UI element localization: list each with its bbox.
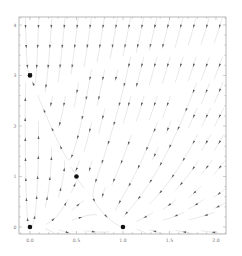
y-tick-label: 2 — [14, 124, 17, 129]
streamline — [163, 212, 185, 220]
streamline — [71, 180, 84, 194]
arrowhead-icon — [219, 64, 221, 68]
arrowhead-icon — [138, 196, 141, 200]
arrowhead-icon — [124, 44, 126, 48]
x-tick-label: 0.5 — [73, 238, 80, 243]
arrowhead-icon — [76, 25, 78, 29]
arrowhead-icon — [71, 154, 74, 158]
arrowhead-icon — [63, 25, 65, 29]
streamline — [201, 83, 210, 104]
streamline — [32, 122, 38, 227]
arrowhead-icon — [212, 232, 216, 234]
arrowhead-icon — [52, 127, 54, 131]
arrowhead-icon — [113, 179, 115, 183]
streamline — [149, 96, 157, 121]
streamline — [214, 18, 222, 44]
arrowhead-icon — [64, 202, 67, 206]
arrowhead-icon — [128, 103, 130, 107]
arrowhead-icon — [154, 128, 156, 132]
arrowhead-icon — [86, 96, 88, 100]
y-tick-label: 3 — [14, 73, 17, 78]
arrowhead-icon — [25, 158, 27, 162]
streamline — [214, 203, 226, 209]
streamline — [188, 18, 196, 46]
equilibrium-point — [121, 225, 126, 230]
streamline — [166, 121, 171, 134]
arrowhead-icon — [193, 64, 195, 68]
streamline — [136, 57, 144, 88]
arrowhead-icon — [216, 205, 220, 208]
arrowhead-icon — [138, 165, 140, 169]
arrowhead-icon — [37, 45, 39, 49]
streamline — [58, 161, 65, 198]
x-tick-label: 2.0 — [212, 238, 219, 243]
streamline — [32, 18, 39, 85]
streamline — [99, 109, 105, 134]
streamline — [150, 134, 198, 204]
streamline — [175, 161, 198, 191]
arrowhead-icon — [76, 167, 78, 171]
streamline — [45, 18, 52, 93]
arrowhead-icon — [153, 231, 157, 233]
arrowhead-icon — [174, 214, 178, 216]
x-tick-label: 0.0 — [26, 238, 33, 243]
streamline — [72, 215, 97, 221]
arrowhead-icon — [24, 138, 26, 142]
arrowhead-icon — [167, 128, 169, 132]
arrowhead-icon — [154, 25, 156, 29]
x-axis-tick-labels: 0.00.51.01.52.0 — [26, 238, 219, 243]
arrowhead-icon — [206, 64, 208, 68]
y-tick-label: 4 — [14, 23, 17, 28]
arrowhead-icon — [95, 179, 97, 183]
arrowhead-icon — [24, 98, 26, 102]
arrowhead-icon — [136, 83, 138, 87]
arrowhead-icon — [115, 25, 117, 29]
arrowhead-icon — [160, 162, 163, 166]
arrowhead-icon — [141, 103, 143, 107]
arrowhead-icon — [44, 109, 46, 113]
arrowhead-icon — [178, 127, 180, 131]
arrowhead-icon — [128, 142, 130, 146]
plot-frame — [19, 17, 226, 234]
arrowhead-icon — [193, 90, 195, 94]
streamline — [150, 230, 163, 234]
arrowhead-icon — [193, 140, 196, 144]
arrowhead-icon — [193, 115, 195, 119]
streamline — [152, 147, 158, 160]
arrowhead-icon — [183, 158, 186, 162]
equilibrium-points — [28, 73, 126, 229]
streamline — [214, 57, 223, 79]
streamline — [202, 231, 223, 234]
streamline — [175, 57, 183, 83]
arrowhead-icon — [50, 157, 52, 161]
arrowhead-icon — [115, 77, 117, 81]
arrowhead-icon — [102, 160, 104, 164]
arrowhead-icon — [50, 103, 52, 107]
arrowhead-icon — [192, 166, 195, 170]
streamline — [189, 212, 215, 220]
streamline — [201, 18, 209, 45]
y-tick-label: 1 — [14, 174, 17, 179]
arrowhead-icon — [71, 64, 73, 68]
arrowhead-icon — [59, 122, 61, 126]
arrowhead-icon — [180, 64, 182, 68]
arrowhead-icon — [204, 214, 208, 216]
arrowhead-icon — [121, 160, 123, 164]
x-tick-label: 1.0 — [119, 238, 126, 243]
arrowhead-icon — [143, 216, 147, 219]
streamline — [38, 70, 92, 160]
arrowhead-icon — [154, 153, 156, 157]
streamline — [214, 82, 223, 103]
streamline — [25, 83, 30, 228]
y-tick-label: 0 — [14, 225, 17, 230]
arrowhead-icon — [119, 103, 121, 107]
streamline — [85, 231, 110, 232]
arrowhead-icon — [25, 25, 27, 29]
arrowhead-icon — [74, 45, 76, 49]
arrowhead-icon — [33, 82, 35, 86]
arrowhead-icon — [128, 25, 130, 29]
streamline — [74, 83, 78, 108]
arrowhead-icon — [63, 103, 65, 107]
arrowhead-icon — [108, 141, 110, 145]
arrowhead-icon — [219, 114, 222, 118]
